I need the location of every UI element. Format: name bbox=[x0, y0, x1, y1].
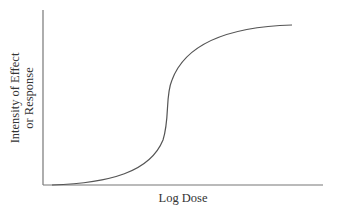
y-axis-label-line1: Intensity of Effect bbox=[8, 52, 22, 143]
dose-response-curve bbox=[52, 25, 292, 185]
dose-response-chart bbox=[0, 0, 338, 215]
x-axis-label: Log Dose bbox=[43, 191, 323, 206]
y-axis-label-line2: or Response bbox=[22, 52, 36, 143]
y-axis-label: Intensity of Effect or Response bbox=[2, 10, 42, 185]
